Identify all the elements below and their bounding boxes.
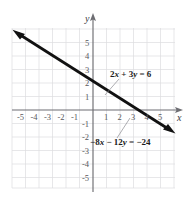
y-tick-3: 3 xyxy=(85,66,89,75)
x-tick-neg5: -5 xyxy=(17,113,24,122)
x-tick-3: 3 xyxy=(131,113,135,122)
x-axis-label: x xyxy=(177,113,181,123)
x-tick-neg4: -4 xyxy=(31,113,38,122)
x-tick-neg3: -3 xyxy=(44,113,51,122)
y-tick-neg5: -5 xyxy=(82,174,89,183)
equation-label-two: −8x − 12y = −24 xyxy=(90,138,151,147)
coordinate-plane-svg xyxy=(0,0,195,202)
x-tick-5: 5 xyxy=(158,113,162,122)
axis-lines xyxy=(12,17,178,192)
graph-figure: y x -5 -4 -3 -2 -1 1 2 3 4 5 5 4 3 2 1 -… xyxy=(0,0,195,202)
x-tick-4: 4 xyxy=(145,113,149,122)
y-axis-label: y xyxy=(85,14,89,24)
x-tick-neg2: -2 xyxy=(58,113,65,122)
x-tick-1: 1 xyxy=(104,113,108,122)
equation-two-mid: − 12 xyxy=(104,137,123,147)
equation-one-mid: + 3 xyxy=(119,69,133,79)
y-tick-neg4: -4 xyxy=(82,160,89,169)
y-tick-1: 1 xyxy=(85,93,89,102)
x-tick-neg1: -1 xyxy=(71,113,78,122)
y-tick-neg3: -3 xyxy=(82,147,89,156)
equation-two-coeff-x: −8 xyxy=(90,137,100,147)
y-tick-5: 5 xyxy=(85,39,89,48)
equation-label-one: 2x + 3y = 6 xyxy=(110,70,151,79)
equation-two-tail: = −24 xyxy=(127,137,151,147)
axis-arrowheads xyxy=(90,13,183,113)
leader-lines xyxy=(105,79,130,138)
y-tick-2: 2 xyxy=(85,79,89,88)
y-tick-4: 4 xyxy=(85,52,89,61)
equation-one-tail: = 6 xyxy=(137,69,151,79)
y-tick-neg2: -2 xyxy=(82,133,89,142)
y-tick-neg1: -1 xyxy=(82,120,89,129)
x-tick-2: 2 xyxy=(118,113,122,122)
